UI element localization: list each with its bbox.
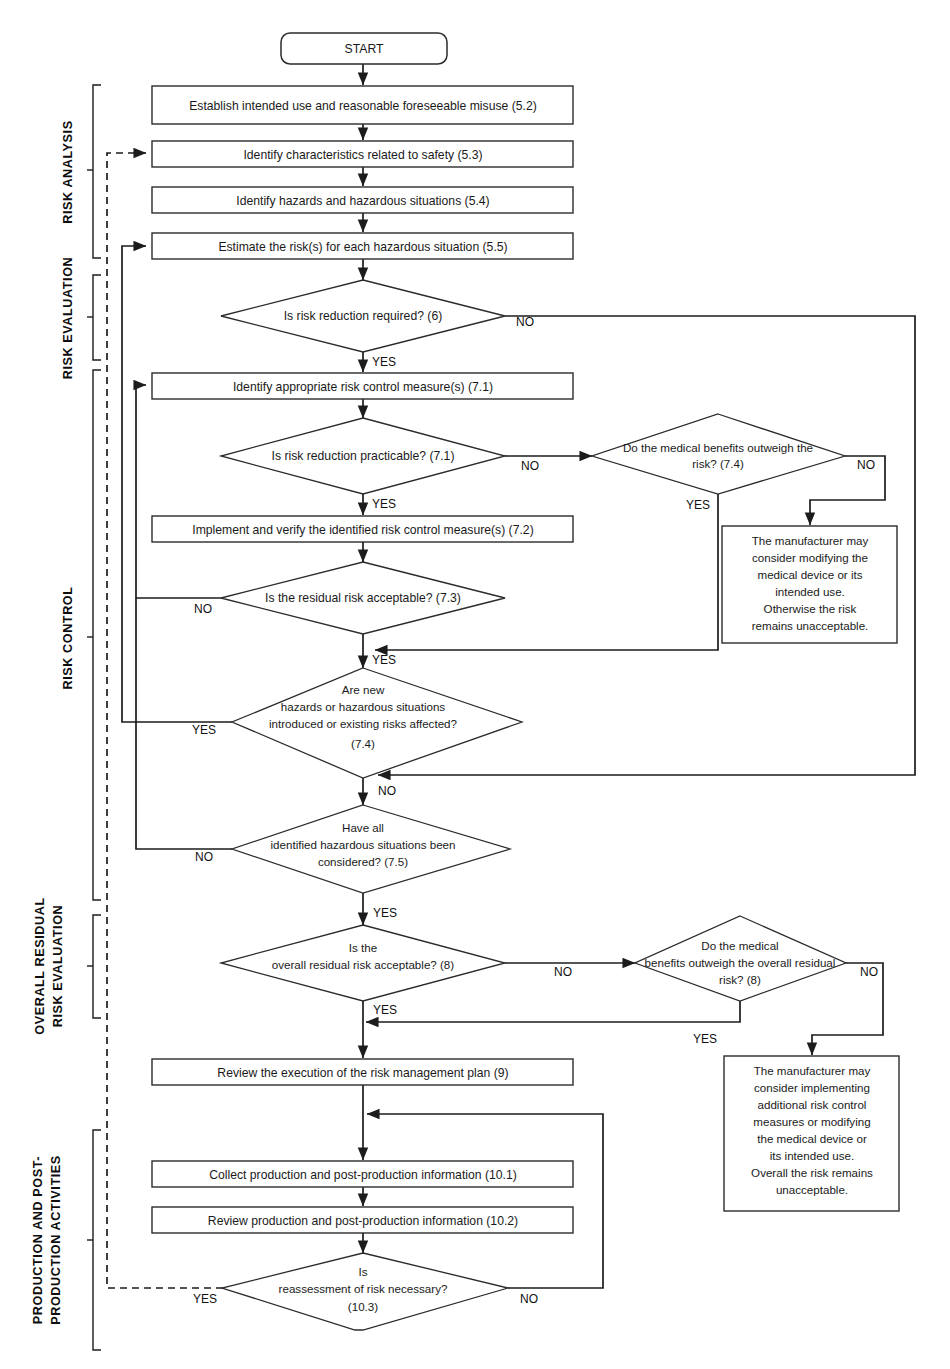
note-74-line2: consider modifying the [752, 551, 868, 564]
benefits-8-label-line3: risk? (8) [719, 973, 761, 986]
new-hazards-label-line2: hazards or hazardous situations [281, 700, 446, 713]
node-review-production-info[interactable]: Review production and post-production in… [152, 1207, 573, 1233]
note-74-line6: remains unacceptable. [752, 619, 869, 632]
risk-reduction-required-label: Is risk reduction required? (6) [284, 309, 443, 323]
edge-residual-no [136, 385, 221, 598]
overall-acceptable-label-line1: Is the [349, 941, 377, 954]
node-overall-residual-acceptable[interactable]: Is the overall residual risk acceptable?… [221, 925, 505, 1001]
phase-brackets [87, 85, 101, 1350]
identify-hazards-label: Identify hazards and hazardous situation… [236, 194, 489, 208]
edge-label-residual-yes: YES [372, 653, 396, 667]
node-start[interactable]: START [281, 33, 447, 64]
note-74-line3: medical device or its [757, 568, 862, 581]
edge-label-decision6-yes: YES [372, 355, 396, 369]
edge-allconsidered-no [136, 598, 232, 849]
note-8-line3: additional risk control [758, 1098, 867, 1111]
note-8-line1: The manufacturer may [754, 1064, 871, 1077]
reassessment-label-line2: reassessment of risk necessary? [279, 1282, 448, 1295]
node-benefits-outweigh-overall-8[interactable]: Do the medical benefits outweigh the ove… [635, 916, 846, 1001]
edge-label-allconsidered-yes: YES [373, 906, 397, 920]
node-reassessment-necessary[interactable]: Is reassessment of risk necessary? (10.3… [222, 1253, 508, 1330]
implement-verify-label: Implement and verify the identified risk… [192, 523, 533, 537]
node-residual-risk-acceptable[interactable]: Is the residual risk acceptable? (7.3) [221, 562, 505, 634]
edge-label-newhazards-no: NO [378, 784, 396, 798]
edge-newhazards-yes [122, 246, 232, 722]
edge-label-newhazards-yes: YES [192, 723, 216, 737]
note-unacceptable-risk-8: The manufacturer may consider implementi… [724, 1056, 899, 1211]
node-collect-production-info[interactable]: Collect production and post-production i… [152, 1161, 573, 1187]
edge-label-benefits74-no: NO [857, 458, 875, 472]
note-8-line6: its intended use. [770, 1149, 854, 1162]
edge-label-residual-no: NO [194, 602, 212, 616]
edge-label-reassessment-no: NO [520, 1292, 538, 1306]
new-hazards-label-line1: Are new [342, 683, 385, 696]
node-identify-characteristics[interactable]: Identify characteristics related to safe… [152, 141, 573, 167]
phase-label-text-line2: RISK EVALUATION [51, 905, 65, 1028]
all-considered-label-line2: identified hazardous situations been [271, 838, 456, 851]
phase-label-text-line1: PRODUCTION AND POST- [31, 1156, 45, 1324]
node-establish-intended-use[interactable]: Establish intended use and reasonable fo… [152, 86, 573, 124]
phase-label-text: RISK ANALYSIS [61, 120, 75, 223]
note-8-line4: measures or modifying [753, 1115, 870, 1128]
estimate-risk-label: Estimate the risk(s) for each hazardous … [218, 240, 507, 254]
benefits-74-label-line1: Do the medical benefits outweigh the [623, 441, 813, 454]
new-hazards-label-line4: (7.4) [351, 737, 375, 750]
node-risk-reduction-required[interactable]: Is risk reduction required? (6) [221, 280, 505, 352]
note-8-line5: the medical device or [757, 1132, 867, 1145]
edge-label-overall-no: NO [554, 965, 572, 979]
new-hazards-label-line3: introduced or existing risks affected? [269, 717, 458, 730]
benefits-74-shape[interactable] [592, 414, 845, 494]
node-identify-control-measures[interactable]: Identify appropriate risk control measur… [152, 373, 573, 399]
edge-label-practicable-yes: YES [372, 497, 396, 511]
phase-label-text-line2: PRODUCTION ACTIVITIES [49, 1155, 63, 1325]
benefits-8-label-line2: benefits outweigh the overall residual [645, 956, 836, 969]
residual-acceptable-label: Is the residual risk acceptable? (7.3) [265, 591, 461, 605]
phase-label-text-line1: OVERALL RESIDUAL [33, 897, 47, 1034]
note-74-line5: Otherwise the risk [764, 602, 857, 615]
phase-label-risk-control: RISK CONTROL [61, 586, 75, 689]
edge-label-practicable-no: NO [521, 459, 539, 473]
benefits-74-label-line2: risk? (7.4) [692, 457, 744, 470]
node-all-hazards-considered[interactable]: Have all identified hazardous situations… [232, 805, 510, 893]
phase-label-overall-residual-risk-evaluation: OVERALL RESIDUAL RISK EVALUATION [33, 897, 65, 1034]
note-8-line7: Overall the risk remains [751, 1166, 873, 1179]
node-reduction-practicable[interactable]: Is risk reduction practicable? (7.1) [221, 418, 505, 494]
identify-chars-label: Identify characteristics related to safe… [243, 148, 482, 162]
establish-label: Establish intended use and reasonable fo… [189, 99, 537, 113]
phase-label-production-activities: PRODUCTION AND POST- PRODUCTION ACTIVITI… [31, 1155, 63, 1325]
node-benefits-outweigh-risk-74[interactable]: Do the medical benefits outweigh the ris… [592, 414, 845, 494]
identify-control-label: Identify appropriate risk control measur… [233, 380, 493, 394]
edge-label-overall-yes: YES [373, 1003, 397, 1017]
node-estimate-risk[interactable]: Estimate the risk(s) for each hazardous … [152, 233, 573, 259]
note-8-line8: unacceptable. [776, 1183, 848, 1196]
phase-label-risk-analysis: RISK ANALYSIS [61, 120, 75, 223]
benefits-8-label-line1: Do the medical [701, 939, 778, 952]
all-considered-label-line1: Have all [342, 821, 384, 834]
note-unacceptable-risk-74: The manufacturer may consider modifying … [722, 526, 897, 643]
flowchart-canvas: RISK ANALYSIS RISK EVALUATION RISK CONTR… [0, 0, 950, 1369]
edge-label-decision6-no: NO [516, 315, 534, 329]
edge-label-benefits74-yes: YES [686, 498, 710, 512]
edge-label-benefits8-no: NO [860, 965, 878, 979]
reassessment-label-line3: (10.3) [348, 1300, 378, 1313]
flowchart-svg: RISK ANALYSIS RISK EVALUATION RISK CONTR… [0, 0, 950, 1369]
review-plan-label: Review the execution of the risk managem… [217, 1066, 508, 1080]
note-74-line4: intended use. [775, 585, 845, 598]
node-identify-hazards[interactable]: Identify hazards and hazardous situation… [152, 187, 573, 213]
reduction-practicable-label: Is risk reduction practicable? (7.1) [272, 449, 455, 463]
phase-label-risk-evaluation: RISK EVALUATION [61, 257, 75, 380]
note-8-line2: consider implementing [754, 1081, 870, 1094]
reassessment-label-line1: Is [358, 1265, 367, 1278]
edge-benefits8-yes [366, 1001, 740, 1022]
collect-info-label: Collect production and post-production i… [209, 1168, 517, 1182]
node-review-risk-management-plan[interactable]: Review the execution of the risk managem… [152, 1059, 573, 1085]
phase-label-text: RISK CONTROL [61, 586, 75, 689]
node-new-hazards-introduced[interactable]: Are new hazards or hazardous situations … [232, 668, 522, 778]
overall-acceptable-label-line2: overall residual risk acceptable? (8) [272, 958, 455, 971]
phase-label-text: RISK EVALUATION [61, 257, 75, 380]
node-implement-verify[interactable]: Implement and verify the identified risk… [152, 516, 573, 542]
edge-label-allconsidered-no: NO [195, 850, 213, 864]
all-considered-label-line3: considered? (7.5) [318, 855, 408, 868]
note-74-line1: The manufacturer may [752, 534, 869, 547]
edge-label-reassessment-yes: YES [193, 1292, 217, 1306]
